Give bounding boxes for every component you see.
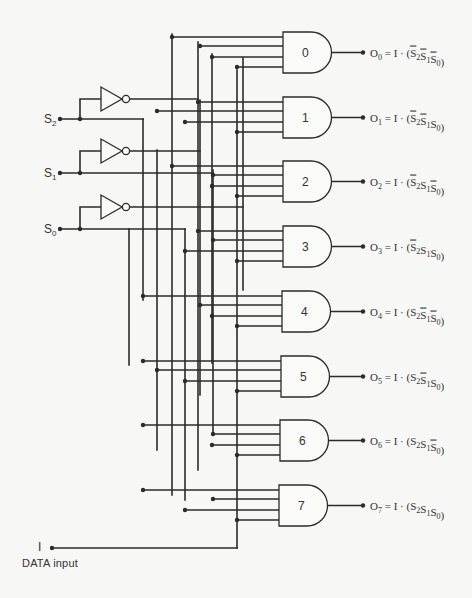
output-terminal-0 bbox=[361, 50, 365, 54]
wire bbox=[60, 207, 101, 229]
junction-dot bbox=[211, 238, 215, 242]
junction-dot bbox=[211, 173, 215, 177]
output-expressions: O0 = I · (S2S1S0)O1 = I · (S2S1S0)O2 = I… bbox=[361, 47, 445, 522]
output-name: O bbox=[370, 371, 378, 383]
subscript: 2 bbox=[52, 119, 57, 128]
input-labels: S2S1S0I bbox=[38, 112, 62, 554]
junction-dot bbox=[235, 453, 239, 457]
input-label-s1: S1 bbox=[44, 166, 57, 182]
junction-dot bbox=[198, 44, 202, 48]
gate-label-7: 7 bbox=[298, 499, 305, 513]
gate-label-2: 2 bbox=[302, 175, 309, 189]
inverter-bubble bbox=[122, 147, 129, 154]
junction-dot bbox=[210, 55, 214, 59]
output-name: O bbox=[370, 500, 378, 512]
junction-dot bbox=[210, 184, 214, 188]
junction-dot bbox=[141, 423, 145, 427]
output-expression-7: O7 = I · (S2S1S0) bbox=[370, 500, 445, 522]
equation: = I · ( bbox=[382, 47, 411, 60]
equation: = I · ( bbox=[382, 112, 411, 125]
output-expression-5: O5 = I · (S2S1S0) bbox=[370, 371, 445, 393]
equation: = I · ( bbox=[382, 176, 411, 189]
inverter-s1 bbox=[101, 139, 122, 163]
output-name: O bbox=[370, 47, 378, 59]
junction-dot bbox=[141, 359, 145, 363]
junction-dot bbox=[170, 164, 174, 168]
junction-dot bbox=[235, 65, 239, 69]
junction-dot bbox=[141, 294, 145, 298]
paren: ) bbox=[441, 315, 445, 328]
junction-dot bbox=[155, 368, 159, 372]
inverter-bubble bbox=[122, 95, 129, 102]
input-label-s2: S2 bbox=[44, 112, 57, 128]
equation: = I · ( bbox=[382, 371, 411, 384]
equation: = I · ( bbox=[382, 306, 411, 319]
junction-dot bbox=[210, 314, 214, 318]
output-expression-4: O4 = I · (S2S1S0) bbox=[370, 306, 445, 328]
output-terminal-2 bbox=[361, 179, 365, 183]
input-terminal-s0 bbox=[58, 227, 62, 231]
output-name: O bbox=[370, 176, 378, 188]
gate-label-3: 3 bbox=[302, 240, 309, 254]
wire bbox=[60, 151, 101, 173]
paren: ) bbox=[441, 509, 445, 522]
data-input-terminal bbox=[50, 546, 54, 550]
paren: ) bbox=[441, 444, 445, 457]
junction-dot bbox=[141, 488, 145, 492]
demux-diagram: 01234567 S2S1S0I O0 = I · (S2S1S0)O1 = I… bbox=[0, 0, 472, 598]
equation: = I · ( bbox=[382, 500, 411, 513]
paren: ) bbox=[441, 185, 445, 198]
paren: ) bbox=[441, 121, 445, 134]
output-terminal-6 bbox=[361, 438, 365, 442]
wire bbox=[60, 99, 101, 119]
output-expression-6: O6 = I · (S2S1S0) bbox=[370, 435, 445, 457]
gate-label-1: 1 bbox=[302, 111, 309, 125]
gate-label-4: 4 bbox=[301, 305, 308, 319]
junction-dot bbox=[235, 130, 239, 134]
output-terminal-5 bbox=[361, 374, 365, 378]
junction-dot bbox=[170, 35, 174, 39]
subscript: 0 bbox=[52, 229, 57, 238]
output-name: O bbox=[370, 435, 378, 447]
output-expression-1: O1 = I · (S2S1S0) bbox=[370, 112, 445, 134]
junction-dot bbox=[183, 508, 187, 512]
junction-dot bbox=[155, 109, 159, 113]
paren: ) bbox=[441, 380, 445, 393]
junction-dot bbox=[198, 303, 202, 307]
inverters bbox=[101, 87, 130, 219]
output-expression-0: O0 = I · (S2S1S0) bbox=[370, 47, 445, 69]
gate-label-6: 6 bbox=[299, 434, 306, 448]
paren: ) bbox=[441, 56, 445, 69]
equation: = I · ( bbox=[382, 241, 411, 254]
junction-dot bbox=[183, 120, 187, 124]
and-gates: 01234567 bbox=[279, 32, 331, 526]
output-terminal-7 bbox=[361, 503, 365, 507]
input-terminal-s1 bbox=[58, 171, 62, 175]
junction-dot bbox=[196, 100, 200, 104]
output-terminal-1 bbox=[361, 115, 365, 119]
data-input-caption: DATA input bbox=[22, 557, 78, 569]
output-expression-2: O2 = I · (S2S1S0) bbox=[370, 176, 445, 198]
output-expression-3: O3 = I · (S2S1S0) bbox=[370, 241, 445, 263]
junction-dot bbox=[235, 259, 239, 263]
junction-dot bbox=[235, 518, 239, 522]
junction-dot bbox=[196, 229, 200, 233]
inverter-s0 bbox=[101, 195, 122, 219]
gate-label-0: 0 bbox=[302, 46, 309, 60]
junction-dot bbox=[211, 497, 215, 501]
junction-dot bbox=[210, 443, 214, 447]
gate-label-5: 5 bbox=[300, 370, 307, 384]
subscript: 1 bbox=[52, 173, 57, 182]
input-terminal-s2 bbox=[58, 117, 62, 121]
equation: = I · ( bbox=[382, 435, 411, 448]
output-name: O bbox=[370, 241, 378, 253]
input-label-s0: S0 bbox=[44, 222, 57, 238]
junction-dot bbox=[235, 194, 239, 198]
output-name: O bbox=[370, 306, 378, 318]
output-name: O bbox=[370, 112, 378, 124]
inverter-bubble bbox=[122, 203, 129, 210]
output-terminal-3 bbox=[361, 244, 365, 248]
inverter-s2 bbox=[101, 87, 122, 111]
junction-dot bbox=[211, 432, 215, 436]
junction-dot bbox=[235, 324, 239, 328]
